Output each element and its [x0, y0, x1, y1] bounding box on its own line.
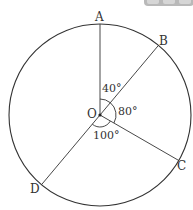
angle-arc-BOC	[110, 103, 116, 123]
label-D: D	[30, 182, 40, 196]
circle-diagram: A B C D O 40° 80° 100°	[0, 0, 193, 210]
label-C: C	[177, 159, 186, 173]
label-O: O	[87, 107, 97, 121]
label-A: A	[94, 10, 104, 24]
center-point	[98, 113, 101, 116]
angle-arc-COD	[92, 121, 110, 127]
angle-label-COD: 100°	[93, 129, 120, 142]
angle-arc-AOB	[100, 99, 110, 103]
label-B: B	[159, 34, 168, 48]
angle-label-BOC: 80°	[118, 105, 138, 118]
radius-OD	[42, 115, 101, 185]
angle-label-AOB: 40°	[102, 82, 122, 95]
